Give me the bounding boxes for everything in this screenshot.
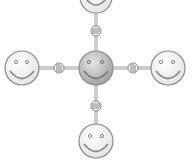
smiley-face-center <box>79 51 113 85</box>
smiley-network-illustration <box>0 0 194 165</box>
handshake-icon <box>91 26 101 36</box>
handshake-icon <box>54 63 64 73</box>
handshake-icon <box>91 101 101 111</box>
smiley-face-bottom <box>79 124 113 158</box>
handshake-icon <box>128 63 138 73</box>
smiley-face-right <box>151 51 185 85</box>
smiley-face-top <box>80 0 112 13</box>
smiley-face-left <box>5 51 39 85</box>
